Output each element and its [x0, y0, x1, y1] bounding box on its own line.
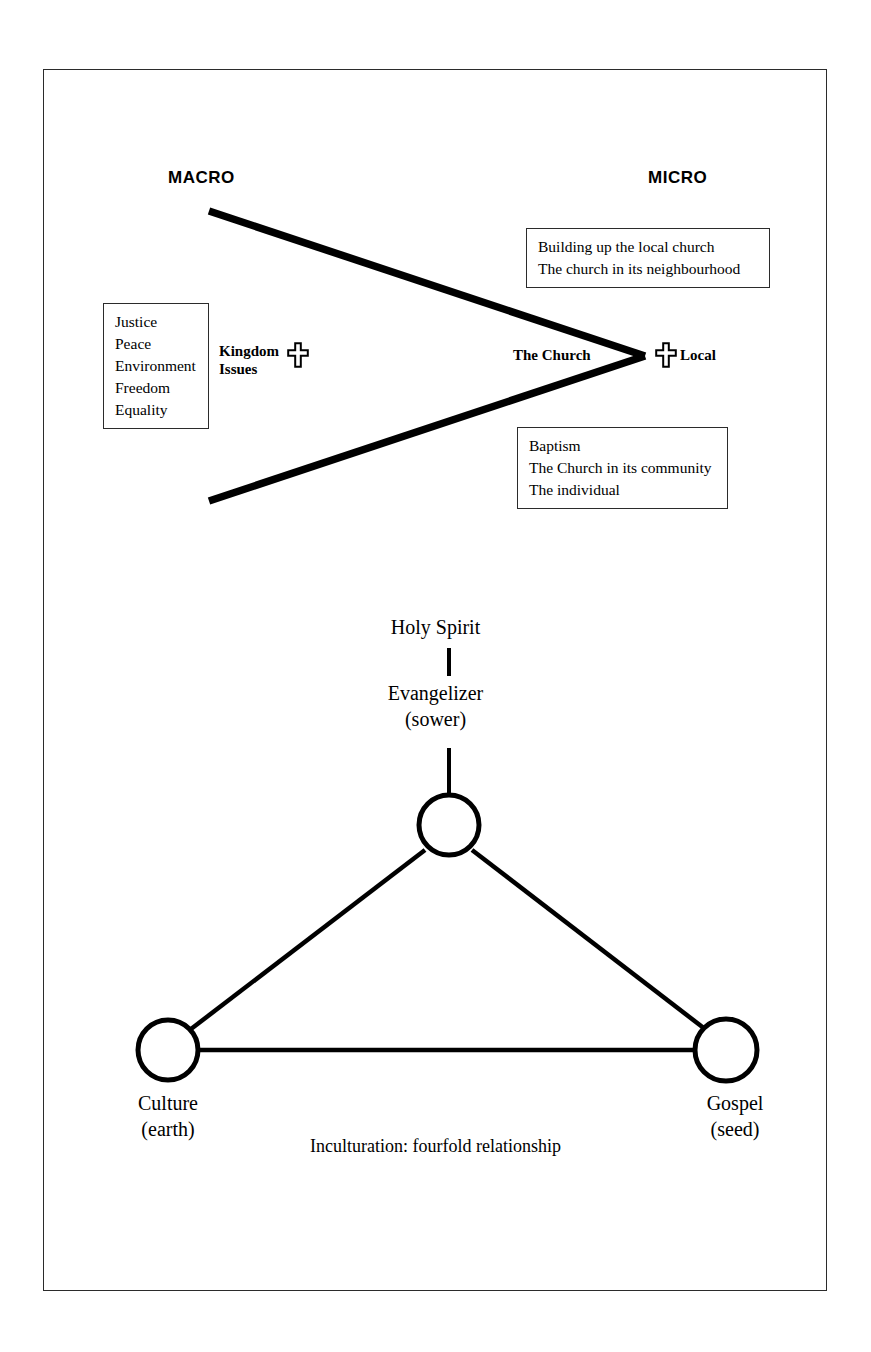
label-culture: Culture (earth): [88, 1090, 248, 1142]
textbox-line: The individual: [529, 479, 717, 501]
label-holy-spirit: Holy Spirit: [0, 614, 871, 640]
textbox-kingdom-issues-list: Justice Peace Environment Freedom Equali…: [103, 303, 209, 429]
label-local: Local: [680, 346, 716, 364]
textbox-line: Environment: [115, 355, 198, 377]
label-gospel-line1: Gospel: [655, 1090, 815, 1116]
label-evangelizer: Evangelizer (sower): [0, 680, 871, 732]
textbox-line: Equality: [115, 399, 198, 421]
textbox-line: Baptism: [529, 435, 717, 457]
label-evangelizer-line2: (sower): [0, 706, 871, 732]
label-culture-line1: Culture: [88, 1090, 248, 1116]
textbox-line: Freedom: [115, 377, 198, 399]
label-gospel: Gospel (seed): [655, 1090, 815, 1142]
cross-icon: [287, 342, 309, 368]
textbox-baptism-community-individual: Baptism The Church in its community The …: [517, 427, 728, 509]
textbox-building-up-local-church: Building up the local church The church …: [526, 228, 770, 288]
textbox-line: Building up the local church: [538, 236, 759, 258]
textbox-line: The church in its neighbourhood: [538, 258, 759, 280]
label-kingdom-issues-line1: Kingdom: [219, 342, 279, 360]
label-the-church: The Church: [513, 346, 591, 364]
figure-page: MACRO MICRO Building up the local church…: [0, 0, 871, 1352]
label-evangelizer-line1: Evangelizer: [0, 680, 871, 706]
label-kingdom-issues-line2: Issues: [219, 360, 279, 378]
textbox-line: Justice: [115, 311, 198, 333]
heading-micro: MICRO: [648, 168, 707, 188]
textbox-line: The Church in its community: [529, 457, 717, 479]
textbox-line: Peace: [115, 333, 198, 355]
heading-macro: MACRO: [168, 168, 235, 188]
figure-caption: Inculturation: fourfold relationship: [0, 1136, 871, 1157]
label-kingdom-issues: Kingdom Issues: [219, 342, 279, 378]
cross-icon: [655, 342, 677, 368]
